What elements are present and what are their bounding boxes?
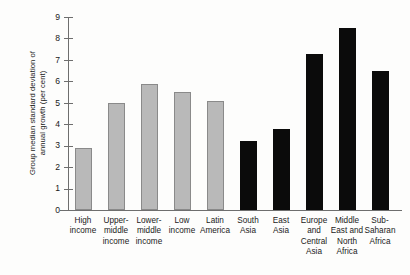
bar-middle-east-and-north-africa: [339, 28, 356, 210]
y-axis-tick-label: 8: [46, 34, 60, 43]
x-axis-label-line: Africa: [358, 237, 402, 247]
y-axis-tick-label: 1: [46, 184, 60, 193]
bars-layer: [68, 15, 402, 212]
bar-sub-saharan-africa: [372, 71, 389, 210]
x-axis-label: Sub-SaharanAfrica: [358, 216, 402, 247]
bar-low-income: [174, 92, 191, 210]
y-axis-tick-label: 5: [46, 99, 60, 108]
y-axis-tick-label: 7: [46, 56, 60, 65]
y-axis-tick-label: 6: [46, 77, 60, 86]
y-axis-title: Group median standard deviation of annua…: [28, 23, 48, 203]
bar-chart-figure: Group median standard deviation of annua…: [0, 0, 410, 275]
bar-east-asia: [273, 129, 290, 210]
y-axis-title-line-1: Group median standard deviation of: [28, 23, 38, 203]
y-axis-tick-label: 0: [46, 206, 60, 215]
y-axis-tick-label: 2: [46, 163, 60, 172]
bar-lower-middle-income: [141, 84, 158, 210]
bar-south-asia: [240, 141, 257, 210]
x-axis-label-line: Saharan: [358, 226, 402, 236]
y-axis-tick-label: 3: [46, 141, 60, 150]
x-axis-label-line: Sub-: [358, 216, 402, 226]
x-axis-label-line: income: [127, 237, 171, 247]
x-axis-label-line: Africa: [325, 247, 369, 257]
y-axis-tick-label: 9: [46, 13, 60, 22]
y-axis-title-line-2: annual growth (per cent): [38, 23, 48, 203]
bar-high-income: [75, 148, 92, 210]
bar-latin-america: [207, 101, 224, 210]
plot-area: 9876543210: [68, 15, 402, 212]
bar-europe-and-central-asia: [306, 54, 323, 211]
x-axis-labels: HighincomeUpper-middleincomeLower-middle…: [68, 216, 408, 274]
y-axis-tick-label: 4: [46, 120, 60, 129]
bar-upper-middle-income: [108, 103, 125, 210]
